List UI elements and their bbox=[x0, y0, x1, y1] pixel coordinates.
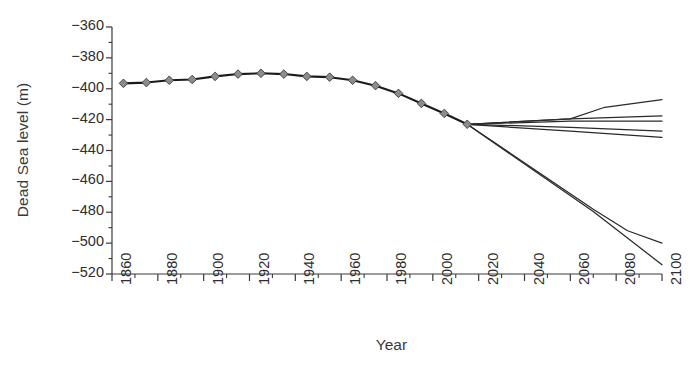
data-markers-group bbox=[119, 69, 471, 129]
y-tick-label: −460 bbox=[44, 171, 104, 187]
y-tick-label: −440 bbox=[44, 141, 104, 157]
x-tick-label: 2060 bbox=[576, 253, 592, 285]
series-line bbox=[467, 124, 662, 243]
x-tick-label: 1920 bbox=[256, 253, 272, 285]
x-tick-label: 2000 bbox=[439, 253, 455, 285]
data-point-marker bbox=[280, 70, 289, 79]
x-axis-label: Year bbox=[0, 336, 693, 354]
x-tick-label: 1960 bbox=[347, 253, 363, 285]
y-tick-label: −380 bbox=[44, 48, 104, 64]
series-line bbox=[467, 124, 662, 137]
x-tick-label: 1880 bbox=[164, 253, 180, 285]
series-line bbox=[123, 73, 467, 124]
x-tick-label: 1940 bbox=[301, 253, 317, 285]
data-point-marker bbox=[165, 76, 174, 85]
data-point-marker bbox=[211, 72, 220, 81]
series-line bbox=[467, 124, 662, 131]
data-point-marker bbox=[302, 72, 311, 81]
data-point-marker bbox=[325, 73, 334, 82]
data-point-marker bbox=[348, 76, 357, 85]
y-tick-label: −360 bbox=[44, 17, 104, 33]
y-axis-ticks bbox=[106, 27, 112, 274]
x-tick-label: 2080 bbox=[622, 253, 638, 285]
data-point-marker bbox=[440, 109, 449, 118]
data-point-marker bbox=[394, 89, 403, 98]
data-point-marker bbox=[119, 79, 128, 88]
x-tick-label: 1980 bbox=[393, 253, 409, 285]
data-point-marker bbox=[371, 81, 380, 90]
data-point-marker bbox=[417, 99, 426, 108]
y-tick-label: −480 bbox=[44, 202, 104, 218]
x-tick-label: 1860 bbox=[118, 253, 134, 285]
data-point-marker bbox=[142, 78, 151, 87]
data-point-marker bbox=[234, 70, 243, 79]
y-tick-label: −420 bbox=[44, 110, 104, 126]
x-tick-label: 1900 bbox=[210, 253, 226, 285]
axis-lines bbox=[112, 27, 662, 274]
y-tick-label: −400 bbox=[44, 79, 104, 95]
y-tick-label: −520 bbox=[44, 264, 104, 280]
x-tick-label: 2020 bbox=[485, 253, 501, 285]
data-series-group bbox=[123, 73, 662, 264]
data-point-marker bbox=[257, 69, 266, 78]
chart-container: Dead Sea level (m) −360−380−400−420−440−… bbox=[0, 0, 693, 365]
series-line bbox=[467, 124, 662, 264]
y-tick-label: −500 bbox=[44, 233, 104, 249]
x-tick-label: 2100 bbox=[668, 253, 684, 285]
x-tick-label: 2040 bbox=[531, 253, 547, 285]
x-axis-label-text: Year bbox=[376, 336, 407, 353]
data-point-marker bbox=[463, 120, 472, 129]
data-point-marker bbox=[188, 75, 197, 84]
